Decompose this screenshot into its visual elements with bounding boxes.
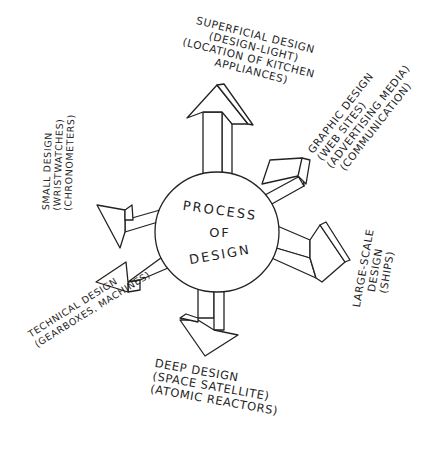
center-label: PROCESS OF DESIGN — [165, 200, 275, 266]
design-process-diagram: PROCESS OF DESIGN SUPERFICIAL DESIGN (DE… — [0, 0, 425, 453]
arrow-down-icon — [180, 288, 238, 356]
arrow-up-icon — [187, 84, 253, 178]
label-small-design: SMALL DESIGN (WRISTWATCHES) (CHRONOMETER… — [40, 113, 76, 211]
arrow-left-icon — [97, 205, 160, 248]
arrow-upper-right-icon — [262, 158, 310, 205]
